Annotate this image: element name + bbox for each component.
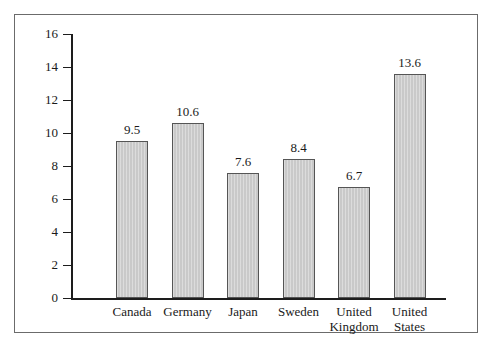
bar-value-label: 10.6 [176, 105, 199, 119]
bar[interactable] [283, 159, 315, 298]
y-axis-tick-mark [63, 265, 71, 266]
y-axis-tick: 12 [15, 100, 71, 101]
bar[interactable] [172, 123, 204, 298]
bar-value-label: 13.6 [398, 56, 421, 70]
bar-column[interactable]: 9.5 [116, 141, 148, 298]
plot-area: 0246810121416 9.510.67.68.46.713.6 Canad… [15, 15, 479, 334]
category-label-line1: Sweden [278, 304, 319, 319]
bar-column[interactable]: 10.6 [172, 123, 204, 298]
bar[interactable] [394, 74, 426, 298]
bar[interactable] [338, 187, 370, 298]
category-label-line1: Canada [113, 304, 152, 319]
category-label-line1: Germany [163, 304, 211, 319]
y-axis-tick: 14 [15, 67, 71, 68]
bar-value-label: 8.4 [290, 141, 306, 155]
y-axis-tick-mark [63, 67, 71, 68]
y-axis-tick-mark [63, 100, 71, 101]
y-axis-tick-label: 6 [16, 192, 58, 205]
y-axis-tick-label: 4 [16, 225, 58, 238]
bar-value-label: 6.7 [346, 169, 362, 183]
x-axis-category-label: UnitedStates [392, 304, 427, 334]
bar-column[interactable]: 8.4 [283, 159, 315, 298]
y-axis-tick-label: 12 [16, 93, 58, 106]
bar[interactable] [116, 141, 148, 298]
y-axis-tick-mark [63, 133, 71, 134]
y-axis-tick: 4 [15, 232, 71, 233]
x-axis-category-label: Germany [163, 304, 211, 319]
y-axis-tick-mark [63, 298, 71, 299]
x-axis-category-label: Sweden [278, 304, 319, 319]
bar-column[interactable]: 6.7 [338, 187, 370, 298]
x-axis-category-label: UnitedKingdom [329, 304, 378, 334]
x-axis-category-label: Japan [228, 304, 258, 319]
category-label-line1: United [336, 304, 371, 319]
bar-column[interactable]: 13.6 [394, 74, 426, 298]
bar-value-label: 7.6 [235, 155, 251, 169]
y-axis-tick: 16 [15, 34, 71, 35]
bar-column[interactable]: 7.6 [227, 173, 259, 298]
y-axis-tick-label: 0 [16, 291, 58, 304]
bar-value-label: 9.5 [124, 123, 140, 137]
y-axis-tick: 8 [15, 166, 71, 167]
y-axis-tick: 2 [15, 265, 71, 266]
y-axis-tick-label: 10 [16, 126, 58, 139]
y-axis-tick-label: 16 [16, 27, 58, 40]
category-label-line2: States [392, 319, 427, 334]
category-label-line1: United [392, 304, 427, 319]
y-axis-tick-mark [63, 232, 71, 233]
y-axis-tick-label: 14 [16, 60, 58, 73]
bar[interactable] [227, 173, 259, 298]
y-axis-tick-mark [63, 199, 71, 200]
figure-page: 0246810121416 9.510.67.68.46.713.6 Canad… [0, 0, 491, 346]
y-axis-tick: 6 [15, 199, 71, 200]
y-axis-tick: 0 [15, 298, 71, 299]
y-axis-tick: 10 [15, 133, 71, 134]
x-axis-category-label: Canada [113, 304, 152, 319]
y-axis-tick-label: 8 [16, 159, 58, 172]
y-axis-line [71, 34, 73, 299]
y-axis-tick-mark [63, 34, 71, 35]
x-axis-line [71, 298, 446, 300]
y-axis-tick-label: 2 [16, 258, 58, 271]
category-label-line2: Kingdom [329, 319, 378, 334]
chart-frame: 0246810121416 9.510.67.68.46.713.6 Canad… [14, 14, 478, 333]
y-axis-tick-mark [63, 166, 71, 167]
category-label-line1: Japan [228, 304, 258, 319]
